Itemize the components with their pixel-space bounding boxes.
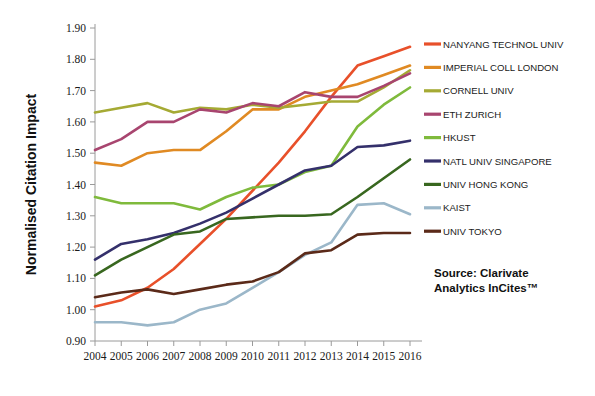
legend-label-7[interactable]: KAIST bbox=[443, 202, 471, 213]
legend-label-4[interactable]: HKUST bbox=[443, 132, 476, 143]
chart-container: 0.901.001.101.201.301.401.501.601.701.80… bbox=[0, 0, 595, 396]
x-tick-label: 2016 bbox=[399, 350, 422, 362]
series-line-1 bbox=[95, 66, 410, 166]
series-line-3 bbox=[95, 73, 410, 150]
y-tick-label: 1.70 bbox=[66, 85, 86, 97]
x-tick-label: 2006 bbox=[136, 350, 159, 362]
series-line-7 bbox=[95, 203, 410, 325]
legend-label-2[interactable]: CORNELL UNIV bbox=[443, 85, 514, 96]
x-tick-label: 2015 bbox=[372, 350, 395, 362]
series-line-6 bbox=[95, 159, 410, 275]
series-line-2 bbox=[95, 70, 410, 112]
legend-label-8[interactable]: UNIV TOKYO bbox=[443, 226, 502, 237]
series-line-0 bbox=[95, 47, 410, 307]
y-axis-title: Normalised Citation Impact bbox=[23, 94, 39, 276]
x-tick-label: 2014 bbox=[346, 350, 369, 362]
y-tick-label: 1.30 bbox=[66, 210, 86, 222]
y-tick-label: 1.60 bbox=[66, 116, 86, 128]
y-tick-label: 0.90 bbox=[66, 335, 86, 347]
legend-label-5[interactable]: NATL UNIV SINGAPORE bbox=[443, 156, 552, 167]
x-tick-label: 2012 bbox=[294, 350, 317, 362]
y-tick-label: 1.50 bbox=[66, 147, 86, 159]
legend-label-3[interactable]: ETH ZURICH bbox=[443, 109, 501, 120]
legend-label-1[interactable]: IMPERIAL COLL LONDON bbox=[443, 62, 559, 73]
x-tick-label: 2005 bbox=[110, 350, 133, 362]
x-tick-label: 2010 bbox=[241, 350, 264, 362]
y-tick-label: 1.80 bbox=[66, 53, 86, 65]
x-tick-label: 2011 bbox=[267, 350, 290, 362]
legend-label-0[interactable]: NANYANG TECHNOL UNIV bbox=[443, 39, 564, 50]
x-tick-label: 2004 bbox=[84, 350, 107, 362]
y-tick-label: 1.00 bbox=[66, 304, 86, 316]
x-tick-label: 2008 bbox=[189, 350, 212, 362]
y-tick-label: 1.10 bbox=[66, 272, 86, 284]
series-line-5 bbox=[95, 141, 410, 260]
x-tick-label: 2009 bbox=[215, 350, 238, 362]
legend-label-6[interactable]: UNIV HONG KONG bbox=[443, 179, 528, 190]
y-tick-label: 1.90 bbox=[66, 22, 86, 34]
y-tick-label: 1.20 bbox=[66, 241, 86, 253]
x-tick-label: 2007 bbox=[162, 350, 185, 362]
source-text-line2: Analytics InCites™ bbox=[434, 282, 538, 294]
source-text-line1: Source: Clarivate bbox=[434, 267, 529, 279]
x-tick-label: 2013 bbox=[320, 350, 343, 362]
y-tick-label: 1.40 bbox=[66, 179, 86, 191]
line-chart: 0.901.001.101.201.301.401.501.601.701.80… bbox=[0, 0, 595, 396]
